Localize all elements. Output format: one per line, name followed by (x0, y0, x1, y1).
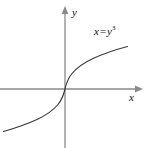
plot-canvas (0, 0, 145, 148)
equation-right-exponent: 3 (112, 24, 116, 32)
equation-operator: = (99, 25, 107, 37)
y-axis-arrow-icon (62, 6, 69, 14)
y-axis-label: y (72, 7, 77, 18)
graph-figure: y x x=y3 (0, 0, 145, 148)
x-axis-arrow-icon (135, 86, 143, 93)
x-axis-label: x (129, 92, 134, 103)
curve-equation-label: x=y3 (94, 26, 116, 37)
